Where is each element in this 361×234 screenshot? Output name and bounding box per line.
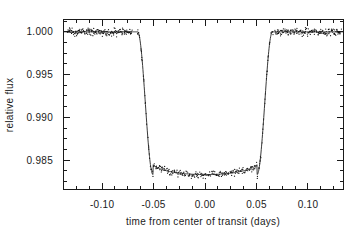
data-point [77, 33, 78, 34]
x-axis-major-ticks [102, 19, 308, 190]
data-point [176, 170, 177, 171]
data-point [330, 35, 331, 36]
data-point [114, 27, 115, 28]
data-point [274, 30, 275, 31]
x-axis-label: time from center of transit (days) [126, 216, 280, 227]
data-point [303, 35, 304, 36]
data-point [126, 34, 127, 35]
data-point [177, 174, 178, 175]
data-point [213, 171, 214, 172]
data-point [325, 28, 326, 29]
data-point [98, 30, 99, 31]
data-point [129, 29, 130, 30]
data-point [284, 28, 285, 29]
data-point [197, 173, 198, 174]
data-point [222, 172, 223, 173]
data-point [74, 36, 75, 37]
data-point [234, 169, 235, 170]
data-point [226, 174, 227, 175]
x-axis-tick-labels: -0.10-0.050.000.050.10 [90, 199, 318, 210]
data-point [185, 175, 186, 176]
data-point [188, 176, 189, 177]
data-point [205, 173, 206, 174]
y-axis-minor-ticks [63, 21, 344, 181]
data-point [116, 33, 117, 34]
data-point [122, 29, 123, 30]
data-point [71, 33, 72, 34]
data-point [94, 33, 95, 34]
data-point [272, 34, 273, 35]
data-point [244, 171, 245, 172]
data-point [137, 29, 138, 30]
data-point [242, 169, 243, 170]
data-point [297, 32, 298, 33]
data-point [197, 175, 198, 176]
data-point [160, 166, 161, 167]
data-point [86, 32, 87, 33]
plot-frame [64, 20, 344, 190]
data-point [288, 34, 289, 35]
data-point [278, 29, 279, 30]
data-point [200, 176, 201, 177]
data-point [283, 28, 284, 29]
data-point [92, 35, 93, 36]
data-point [116, 36, 117, 37]
data-point [161, 170, 162, 171]
data-point [294, 28, 295, 29]
data-point [214, 171, 215, 172]
data-point [172, 173, 173, 174]
data-point [92, 30, 93, 31]
data-point [220, 172, 221, 173]
data-point [334, 33, 335, 34]
data-point [194, 175, 195, 176]
data-point [336, 29, 337, 30]
data-point [107, 33, 108, 34]
data-point [162, 167, 163, 168]
data-point [341, 28, 342, 29]
data-point [168, 169, 169, 170]
data-point [164, 168, 165, 169]
x-tick-label: 0.00 [195, 199, 216, 210]
data-point [293, 30, 294, 31]
data-point [189, 174, 190, 175]
data-point [310, 34, 311, 35]
data-point [320, 29, 321, 30]
data-point [86, 29, 87, 30]
data-point [220, 171, 221, 172]
data-point [328, 32, 329, 33]
data-point [108, 29, 109, 30]
data-point [113, 34, 114, 35]
data-point [161, 171, 162, 172]
data-point [237, 169, 238, 170]
data-point [78, 32, 79, 33]
y-tick-label: 0.990 [26, 112, 53, 123]
data-point [337, 34, 338, 35]
data-point [97, 29, 98, 30]
data-point [231, 170, 232, 171]
data-point [79, 29, 80, 30]
data-point [122, 33, 123, 34]
data-point [187, 172, 188, 173]
transit-model-curve [63, 32, 344, 175]
data-point [252, 166, 253, 167]
data-point [195, 171, 196, 172]
photometry-data-points [67, 27, 342, 179]
data-point [296, 28, 297, 29]
data-point [192, 175, 193, 176]
data-point [199, 171, 200, 172]
data-point [89, 29, 90, 30]
data-point [247, 168, 248, 169]
data-point [109, 34, 110, 35]
data-point [257, 176, 258, 177]
data-point [251, 171, 252, 172]
data-point [194, 177, 195, 178]
data-point [219, 172, 220, 173]
data-point [276, 32, 277, 33]
y-tick-label: 0.985 [26, 155, 53, 166]
data-point [212, 171, 213, 172]
data-point [152, 176, 153, 177]
data-point [84, 33, 85, 34]
data-point [327, 34, 328, 35]
data-point [318, 34, 319, 35]
data-point [167, 173, 168, 174]
